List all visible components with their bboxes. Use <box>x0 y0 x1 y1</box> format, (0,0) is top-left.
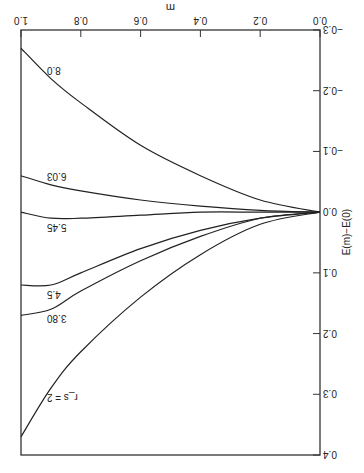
energy-vs-m-chart: 0.00.20.40.60.81.0−0.3−0.2−0.10.00.10.20… <box>0 0 364 473</box>
y-tick-label: 0.0 <box>323 206 337 217</box>
curve-label: 8.0 <box>46 65 60 76</box>
x-tick-label: 0.4 <box>193 15 207 26</box>
y-tick-label: 0.1 <box>323 267 337 278</box>
y-tick-label: −0.3 <box>323 24 343 35</box>
x-tick-label: 0.8 <box>73 15 87 26</box>
y-tick-label: 0.4 <box>323 449 337 460</box>
curve-label: r_s = 2 <box>46 392 77 403</box>
y-axis-label: E(m)−E(0) <box>341 209 352 255</box>
y-tick-label: −0.1 <box>323 145 343 156</box>
x-tick-label: 0.2 <box>253 15 267 26</box>
curve-label: 5.45 <box>46 222 66 233</box>
chart-container: 0.00.20.40.60.81.0−0.3−0.2−0.10.00.10.20… <box>0 0 364 473</box>
y-tick-label: 0.2 <box>323 328 337 339</box>
x-axis-label: m <box>166 2 175 14</box>
curve-label: 6.03 <box>46 171 66 182</box>
y-tick-label: 0.3 <box>323 388 337 399</box>
x-tick-label: 1.0 <box>14 15 28 26</box>
y-tick-label: −0.2 <box>323 85 343 96</box>
x-tick-label: 0.6 <box>133 15 147 26</box>
curve-label: 3.80 <box>46 313 66 324</box>
curve-label: 4.5 <box>46 289 60 300</box>
